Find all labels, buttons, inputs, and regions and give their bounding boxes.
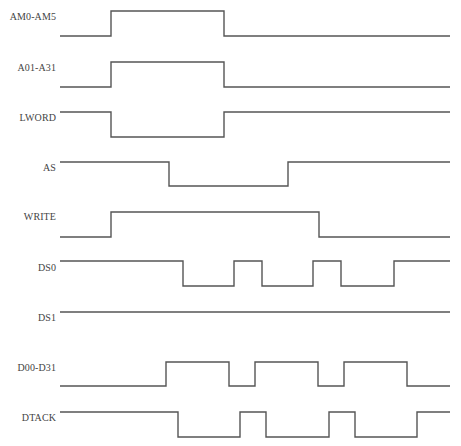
waveform-dtack: [60, 412, 450, 437]
waveform-d00-d31: [60, 362, 450, 386]
waveform-a01-a31: [60, 62, 450, 87]
waveform-am0-am5: [60, 11, 450, 36]
waveform-canvas: [0, 0, 461, 446]
waveform-ds0: [60, 261, 450, 286]
waveform-write: [60, 212, 450, 237]
waveform-lword: [60, 112, 450, 137]
timing-diagram: AM0-AM5 A01-A31 LWORD AS WRITE DS0 DS1 D…: [0, 0, 461, 446]
waveform-as: [60, 162, 450, 186]
